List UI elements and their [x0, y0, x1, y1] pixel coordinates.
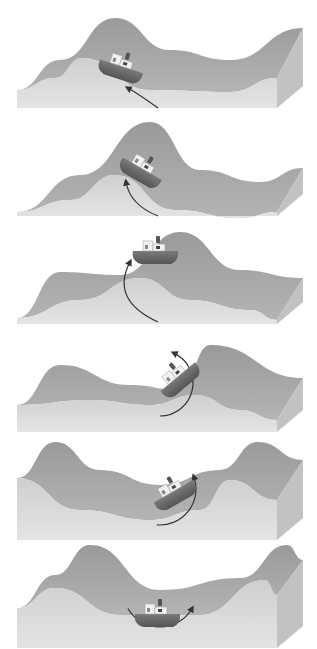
wave-panel-2: [17, 122, 303, 218]
wave-panel-3: [17, 232, 303, 324]
wave-panel-5: [17, 442, 303, 540]
wave-panel-6: [17, 545, 303, 648]
wave-panel-4: [17, 345, 303, 432]
wave-panel-1: [17, 18, 303, 108]
wave-orbital-motion-diagram: [0, 0, 317, 649]
